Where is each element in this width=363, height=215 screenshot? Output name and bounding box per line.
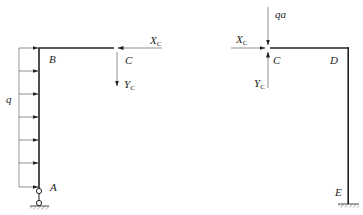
left-free-body: B C q A XC YC bbox=[6, 34, 162, 210]
label-c-left: C bbox=[125, 54, 133, 66]
hinge-ground-icon bbox=[36, 200, 41, 205]
right-free-body: qa XC C D YC E bbox=[231, 7, 359, 208]
label-q: q bbox=[6, 93, 12, 105]
label-xc-left: XC bbox=[149, 34, 162, 48]
fixed-support-e bbox=[338, 204, 359, 208]
frame-diagram: B C q A XC YC qa XC C D YC E bbox=[0, 0, 363, 215]
label-yc-right: YC bbox=[254, 77, 265, 91]
label-yc-left: YC bbox=[124, 78, 135, 92]
hinge-a-icon bbox=[36, 188, 41, 193]
label-qa: qa bbox=[275, 8, 287, 20]
label-a: A bbox=[49, 181, 57, 193]
label-e: E bbox=[334, 186, 342, 198]
distributed-load-q bbox=[19, 48, 38, 187]
label-xc-right: XC bbox=[235, 33, 248, 47]
pin-support-a bbox=[30, 188, 49, 209]
ground-hatch-icon bbox=[30, 206, 49, 210]
label-c-right: C bbox=[273, 54, 281, 66]
label-b: B bbox=[49, 53, 56, 65]
ground-hatch-icon bbox=[338, 204, 359, 208]
label-d: D bbox=[329, 54, 338, 66]
